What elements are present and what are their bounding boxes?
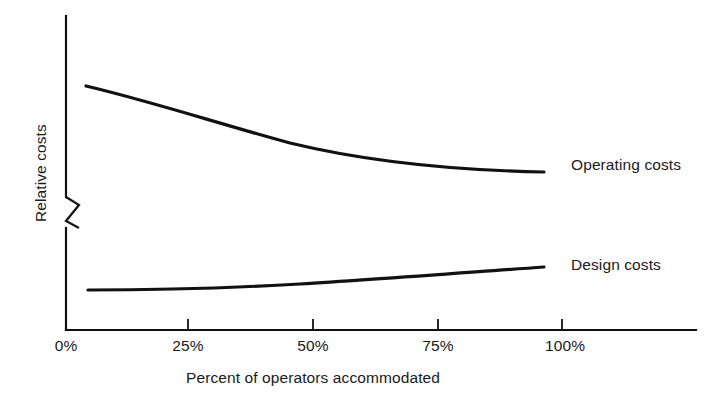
operating-costs-curve [86, 86, 544, 172]
x-tick-label-75: 75% [422, 337, 453, 355]
design-costs-label: Design costs [571, 256, 661, 274]
x-tick-label-50: 50% [297, 337, 328, 355]
relative-costs-chart: Relative costs 0% 25% 50% 75% 100% Perce… [0, 0, 724, 406]
y-axis-title: Relative costs [32, 124, 50, 222]
x-axis-title: Percent of operators accommodated [186, 369, 440, 387]
x-tick-label-100: 100% [545, 337, 585, 355]
design-costs-curve [88, 267, 544, 290]
chart-canvas [0, 0, 724, 406]
operating-costs-label: Operating costs [571, 156, 681, 174]
x-tick-label-0: 0% [55, 337, 78, 355]
y-axis-break-zigzag [66, 197, 79, 228]
x-tick-label-25: 25% [172, 337, 203, 355]
